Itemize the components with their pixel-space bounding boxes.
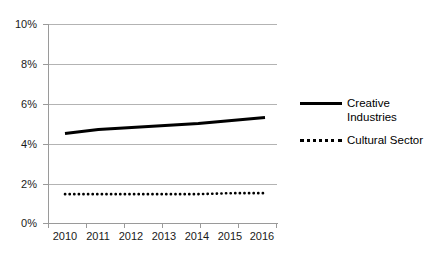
chart-legend: Creative Industries Cultural Sector xyxy=(300,96,426,158)
legend-label-creative-industries: Creative Industries xyxy=(347,96,397,124)
legend-dotted-line-icon xyxy=(300,133,342,149)
chart-container: 10% 8% 6% 4% 2% 0% 2010 2011 2012 2013 2… xyxy=(0,0,426,258)
legend-item-creative-industries: Creative Industries xyxy=(300,96,426,124)
legend-item-cultural-sector: Cultural Sector xyxy=(300,133,426,149)
series-line-creative-industries xyxy=(65,118,265,134)
legend-solid-line-icon xyxy=(300,96,342,112)
series-line-cultural-sector xyxy=(65,193,265,194)
legend-label-creative-line2: Industries xyxy=(347,111,397,123)
legend-label-cultural-sector: Cultural Sector xyxy=(347,133,423,147)
legend-label-creative-line1: Creative xyxy=(347,97,390,109)
